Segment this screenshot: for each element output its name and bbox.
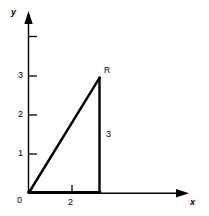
triangle-hypotenuse — [29, 78, 100, 193]
y-tick-label-3: 3 — [18, 71, 23, 80]
origin-label: 0 — [17, 196, 22, 205]
x-tick-label-2: 2 — [68, 198, 73, 207]
y-tick-label-1: 1 — [18, 149, 23, 158]
y-axis-label: y — [11, 8, 16, 17]
geometry-figure: y x 0 3 2 1 2 R 3 — [0, 0, 209, 216]
side-length-label: 3 — [106, 130, 111, 139]
diagram-canvas — [0, 0, 209, 216]
point-label-r: R — [104, 66, 110, 75]
y-axis-arrowhead — [24, 11, 32, 24]
y-tick-label-2: 2 — [18, 110, 23, 119]
x-axis-arrowhead — [176, 189, 189, 197]
x-axis-label: x — [190, 198, 195, 207]
